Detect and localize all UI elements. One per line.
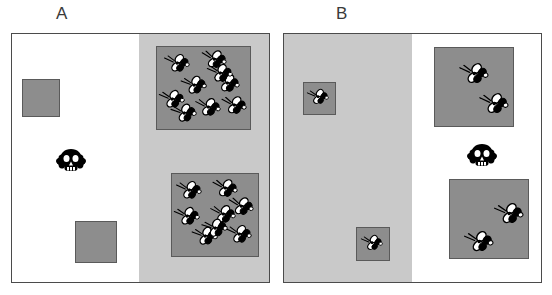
arena-panel-b	[283, 33, 542, 283]
fly-icon	[461, 226, 498, 260]
fly-icon	[476, 88, 512, 121]
fly-patch-upper-right	[156, 46, 251, 130]
fly-icon	[491, 198, 528, 232]
fly-icon	[219, 93, 250, 121]
arena-panel-a	[11, 33, 270, 283]
empty-patch-upper-left	[22, 79, 60, 117]
fly-patch-lower-right	[449, 179, 529, 259]
shaded-half-b	[284, 34, 412, 282]
fly-icon	[174, 177, 206, 206]
empty-patch-lower-left	[75, 221, 117, 263]
fly-patch-lower-right	[171, 173, 259, 257]
panel-label-b: B	[336, 4, 348, 24]
fly-patch-small-lower-left	[356, 227, 390, 261]
figure-canvas: A	[0, 0, 552, 295]
skull-and-crossbones-icon	[465, 141, 499, 171]
panel-label-a: A	[56, 4, 68, 24]
fly-patch-small-upper-left	[303, 82, 336, 115]
fly-icon	[359, 231, 386, 256]
fly-icon	[162, 50, 194, 79]
fly-icon	[456, 58, 492, 91]
fly-patch-upper-right	[434, 47, 514, 127]
skull-and-crossbones-icon	[54, 146, 88, 176]
fly-icon	[305, 85, 332, 110]
fly-icon	[226, 194, 256, 221]
fly-icon	[224, 221, 256, 250]
